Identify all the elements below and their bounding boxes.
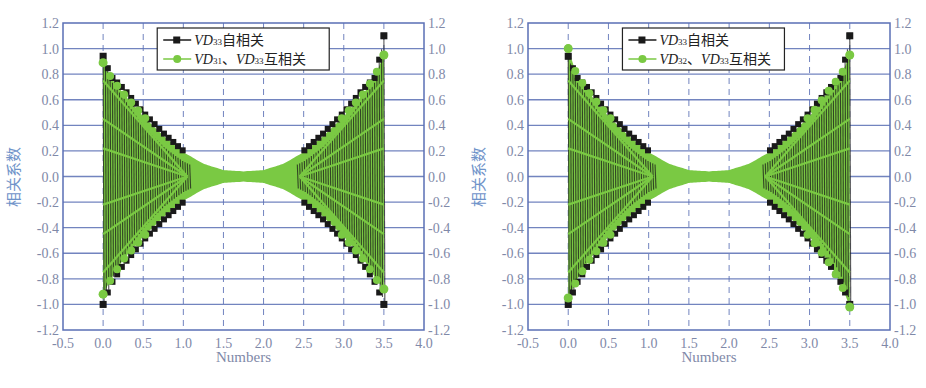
y-tick-label-left: 1.2 xyxy=(507,16,525,31)
chart-svg: 1.21.21.01.00.80.80.60.60.40.40.20.20.00… xyxy=(0,0,463,388)
marker-circle xyxy=(345,238,353,246)
marker-circle xyxy=(804,231,812,239)
chart-svg: 1.21.21.01.00.80.80.60.60.40.40.20.20.00… xyxy=(463,0,926,388)
y-tick-label-right: 1.0 xyxy=(894,42,912,57)
marker-circle xyxy=(338,114,346,122)
y-tick-label-left: 0.0 xyxy=(507,170,525,185)
y-tick-label-left: 0.6 xyxy=(507,93,525,108)
legend-label: VD33自相关 xyxy=(659,33,729,48)
marker-circle xyxy=(366,265,374,273)
chart-left: 1.21.21.01.00.80.80.60.60.40.40.20.20.00… xyxy=(0,0,463,388)
marker-circle xyxy=(373,68,381,76)
marker-square-extreme xyxy=(565,53,572,60)
x-tick-label: 0.5 xyxy=(134,336,152,351)
marker-circle xyxy=(338,231,346,239)
oscillation-stroke xyxy=(384,36,385,305)
marker-circle xyxy=(113,82,121,90)
legend-prefix: VD xyxy=(701,52,720,67)
marker-circle xyxy=(352,246,360,254)
marker-circle xyxy=(585,89,593,97)
y-tick-label-right: -1.0 xyxy=(894,297,916,312)
y-tick-label-right: -0.6 xyxy=(894,246,916,261)
marker-circle xyxy=(352,99,360,107)
marker-square xyxy=(645,200,651,206)
legend-subscript: 31 xyxy=(213,56,222,66)
y-tick-label-right: -0.2 xyxy=(894,195,916,210)
marker-circle-extreme xyxy=(845,302,854,311)
y-tick-label-left: 0.4 xyxy=(42,118,60,133)
marker-circle xyxy=(373,276,381,284)
x-tick-label: 0.0 xyxy=(94,336,112,351)
marker-circle xyxy=(106,277,114,285)
marker-circle-extreme xyxy=(845,50,854,59)
marker-square xyxy=(180,147,186,153)
x-tick-label: -0.5 xyxy=(52,336,74,351)
legend-prefix: VD xyxy=(194,52,213,67)
y-tick-label-right: 1.2 xyxy=(894,16,912,31)
y-tick-label-right: -0.6 xyxy=(428,246,450,261)
y-tick-label-right: 0.0 xyxy=(894,170,912,185)
x-tick-label: 4.0 xyxy=(415,336,433,351)
y-tick-label-right: 1.0 xyxy=(428,42,446,57)
marker-circle xyxy=(832,270,840,278)
marker-circle xyxy=(571,67,579,75)
marker-circle xyxy=(818,249,826,257)
legend-marker-square xyxy=(173,37,180,44)
x-tick-label: 3.5 xyxy=(375,336,393,351)
oscillation-stroke xyxy=(850,36,851,305)
marker-circle xyxy=(345,107,353,115)
y-tick-label-left: 0.6 xyxy=(42,93,60,108)
marker-circle xyxy=(832,78,840,86)
y-tick-label-left: 1.0 xyxy=(507,42,525,57)
x-tick-label: 3.5 xyxy=(841,336,859,351)
x-tick-label: 1.0 xyxy=(175,336,193,351)
marker-square-extreme xyxy=(846,32,853,39)
marker-circle xyxy=(134,107,142,115)
legend-marker-square xyxy=(638,37,645,44)
legend-prefix: VD xyxy=(659,52,678,67)
y-tick-label-left: 1.0 xyxy=(42,42,60,57)
x-axis-label: Numbers xyxy=(216,349,271,365)
y-tick-label-left: -0.6 xyxy=(37,246,59,261)
marker-square-extreme xyxy=(380,301,387,308)
marker-circle xyxy=(811,106,819,114)
y-tick-label-right: 0.4 xyxy=(428,118,446,133)
legend-subscript: 32 xyxy=(678,56,687,66)
marker-circle xyxy=(599,106,607,114)
marker-circle xyxy=(120,91,128,99)
marker-circle xyxy=(804,114,812,122)
marker-circle xyxy=(141,114,149,122)
legend-label: VD31、VD33互相关 xyxy=(194,52,305,67)
marker-circle xyxy=(120,254,128,262)
marker-circle xyxy=(839,68,847,76)
marker-circle-extreme xyxy=(379,285,388,294)
y-tick-label-left: 0.8 xyxy=(42,67,60,82)
marker-circle xyxy=(359,91,367,99)
marker-circle-extreme xyxy=(379,50,388,59)
y-axis-label: 相关系数 xyxy=(471,147,487,207)
legend: VD33自相关VD32、VD33互相关 xyxy=(622,28,784,70)
series-auto-oscillation xyxy=(568,36,851,305)
marker-circle xyxy=(106,72,114,80)
y-tick-label-left: -1.0 xyxy=(502,297,524,312)
legend-prefix: VD xyxy=(194,33,213,48)
y-tick-label-right: 0.6 xyxy=(428,93,446,108)
y-tick-label-right: 0.8 xyxy=(428,67,446,82)
marker-circle xyxy=(127,246,135,254)
marker-circle xyxy=(571,279,579,287)
y-tick-label-left: -0.4 xyxy=(37,221,59,236)
y-tick-label-left: 0.0 xyxy=(42,170,60,185)
x-tick-label: 4.0 xyxy=(881,336,899,351)
marker-square xyxy=(372,75,378,81)
y-tick-label-right: -0.2 xyxy=(428,195,450,210)
legend-suffix: 互相关 xyxy=(264,52,306,67)
y-tick-label-left: -0.8 xyxy=(37,272,59,287)
legend-label: VD33自相关 xyxy=(194,33,264,48)
marker-circle-extreme xyxy=(99,58,108,67)
chart-right: 1.21.21.01.00.80.80.60.60.40.40.20.20.00… xyxy=(463,0,926,388)
marker-circle xyxy=(127,99,135,107)
legend-suffix: 互相关 xyxy=(729,52,771,67)
marker-square xyxy=(837,279,843,285)
x-tick-label: 0.5 xyxy=(600,336,618,351)
marker-square-extreme xyxy=(380,32,387,39)
